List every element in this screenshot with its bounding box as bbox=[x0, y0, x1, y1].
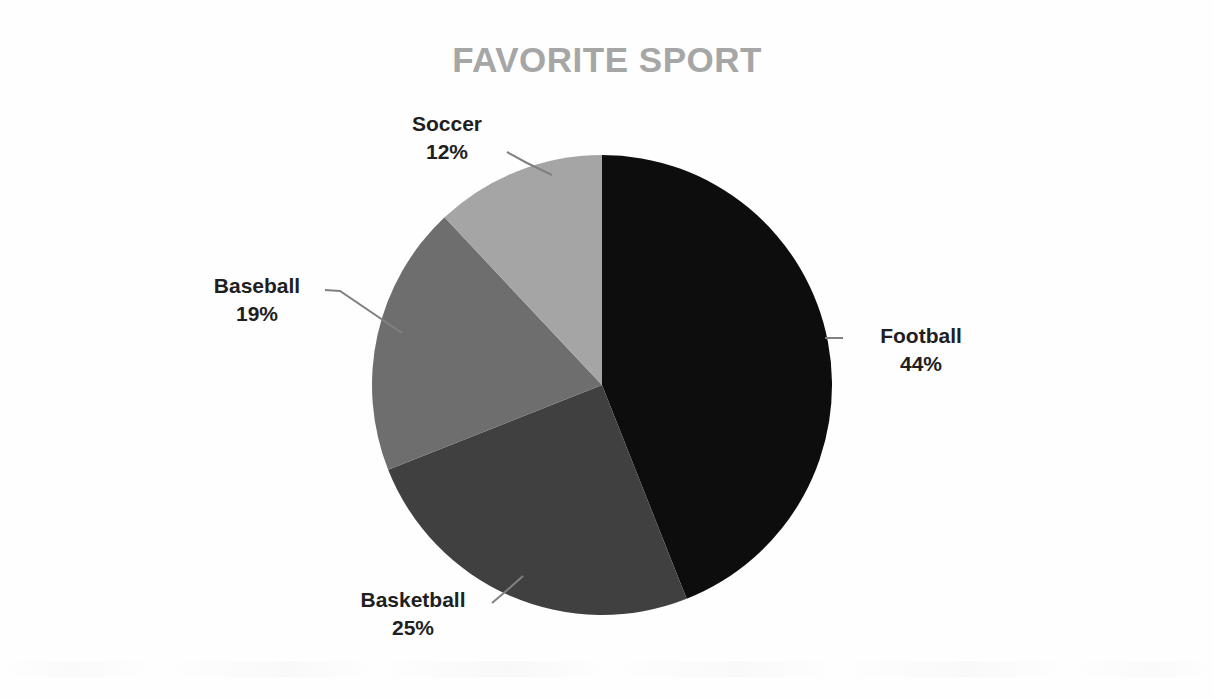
data-label-basketball: Basketball 25% bbox=[318, 586, 508, 641]
data-label-soccer-name: Soccer bbox=[372, 110, 522, 138]
data-label-football-name: Football bbox=[846, 322, 996, 350]
pie-chart-graphic bbox=[0, 0, 1214, 699]
data-label-baseball: Baseball 19% bbox=[172, 272, 342, 327]
data-label-basketball-percent: 25% bbox=[318, 614, 508, 642]
data-label-football-percent: 44% bbox=[846, 350, 996, 378]
pie-chart-page: FAVORITE SPORT Soccer 12% Baseball 19% B… bbox=[0, 0, 1214, 699]
data-label-baseball-percent: 19% bbox=[172, 300, 342, 328]
data-label-soccer-percent: 12% bbox=[372, 138, 522, 166]
data-label-soccer: Soccer 12% bbox=[372, 110, 522, 165]
data-label-football: Football 44% bbox=[846, 322, 996, 377]
data-label-basketball-name: Basketball bbox=[318, 586, 508, 614]
data-label-baseball-name: Baseball bbox=[172, 272, 342, 300]
